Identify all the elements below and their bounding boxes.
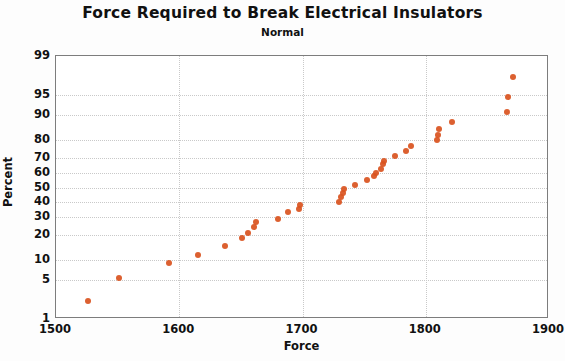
probability-plot-figure: Force Required to Break Electrical Insul… <box>0 0 565 361</box>
x-axis-tick-label: 1500 <box>39 322 71 336</box>
x-axis-tick-label: 1900 <box>532 322 564 336</box>
data-point <box>116 275 122 281</box>
data-point <box>403 148 409 154</box>
y-axis-tick-label: 95 <box>34 87 50 101</box>
data-point <box>436 126 442 132</box>
x-axis-tick-label: 1600 <box>162 322 194 336</box>
data-point <box>434 137 440 143</box>
data-point <box>222 243 228 249</box>
plot-area <box>55 55 548 318</box>
y-axis-tick-label: 80 <box>34 132 50 146</box>
y-axis-tick-label: 5 <box>42 272 50 286</box>
data-point <box>505 94 511 100</box>
y-axis-tick-label: 40 <box>34 194 50 208</box>
data-point <box>504 109 510 115</box>
data-point <box>195 252 201 258</box>
y-axis-tick-label: 20 <box>34 227 50 241</box>
data-points-layer <box>56 56 547 317</box>
data-point <box>275 216 281 222</box>
data-point <box>435 132 441 138</box>
data-point <box>239 235 245 241</box>
data-point <box>285 209 291 215</box>
data-point <box>392 153 398 159</box>
data-point <box>352 182 358 188</box>
chart-subtitle: Normal <box>0 26 565 38</box>
data-point <box>510 74 516 80</box>
data-point <box>297 202 303 208</box>
data-point <box>381 158 387 164</box>
y-axis-tick-label: 60 <box>34 165 50 179</box>
y-axis-tick-label: 90 <box>34 107 50 121</box>
y-axis-tick-label: 99 <box>34 48 50 62</box>
chart-title: Force Required to Break Electrical Insul… <box>0 4 565 22</box>
y-axis-tick-label: 30 <box>34 209 50 223</box>
data-point <box>364 177 370 183</box>
data-point <box>341 186 347 192</box>
data-point <box>85 298 91 304</box>
y-axis-title: Percent <box>1 152 15 212</box>
data-point <box>408 143 414 149</box>
x-axis-tick-labels: 15001600170018001900 <box>55 322 548 340</box>
x-axis-tick-label: 1800 <box>409 322 441 336</box>
data-point <box>166 260 172 266</box>
y-axis-tick-label: 50 <box>34 180 50 194</box>
data-point <box>245 230 251 236</box>
data-point <box>449 119 455 125</box>
y-axis-tick-label: 10 <box>34 252 50 266</box>
y-axis-tick-label: 70 <box>34 150 50 164</box>
data-point <box>253 219 259 225</box>
x-axis-title: Force <box>55 339 548 353</box>
x-axis-tick-label: 1700 <box>285 322 317 336</box>
